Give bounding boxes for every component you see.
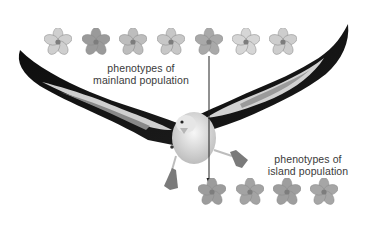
flower-icon: [269, 28, 297, 56]
flower-icon: [310, 178, 338, 206]
mainland-population-label: phenotypes of mainland population: [76, 62, 206, 86]
flower-icon: [236, 178, 264, 206]
flower-icon: [273, 178, 301, 206]
flower-icon: [232, 28, 260, 56]
island-label-line2: island population: [253, 165, 363, 177]
flower-icon: [157, 28, 185, 56]
flower-icon: [195, 28, 223, 56]
mainland-label-line2: mainland population: [76, 74, 206, 86]
island-population-label: phenotypes of island population: [253, 153, 363, 177]
flower-icon: [198, 178, 226, 206]
flower-icon: [119, 28, 147, 56]
flower-icon: [82, 28, 110, 56]
mainland-label-line1: phenotypes of: [76, 62, 206, 74]
island-label-line1: phenotypes of: [253, 153, 363, 165]
flower-icon: [44, 28, 72, 56]
